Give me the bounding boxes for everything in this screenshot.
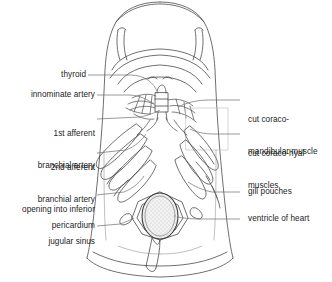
gill-pouches-right xyxy=(175,126,220,208)
label-gill-pouches: gill pouches xyxy=(248,187,332,198)
pharyngeal-dissection xyxy=(126,94,196,135)
label-coraco-hyal-line1: cut coraco-hyal xyxy=(248,149,332,160)
ventricle-of-heart-shape xyxy=(142,193,178,239)
gill-arches-left xyxy=(96,124,156,202)
conus-arteriosus xyxy=(146,238,160,272)
leader-ventricle xyxy=(178,217,240,219)
label-pericardium: pericardium xyxy=(0,221,95,232)
leader-coraco-mandibular xyxy=(178,100,240,107)
leader-coraco-hyal xyxy=(190,129,240,134)
label-second-afferent-line1: 2nd afferent xyxy=(0,163,95,174)
label-first-afferent-line1: 1st afferent xyxy=(0,129,95,140)
leader-pericardium xyxy=(97,218,134,226)
leader-second-afferent xyxy=(97,134,146,153)
label-cut-coraco-hyal-muscles: cut coraco-hyal muscles xyxy=(248,128,332,212)
label-thyroid: thyroid xyxy=(0,70,86,81)
figure-container: thyroid innominate artery 1st afferent b… xyxy=(0,0,332,282)
label-ventricle-of-heart: ventricle of heart xyxy=(248,214,332,225)
label-innominate-artery: innominate artery xyxy=(0,90,95,101)
label-jugular-sinus-line2: jugular sinus xyxy=(0,237,95,248)
leader-thyroid xyxy=(88,75,157,91)
label-jugular-sinus-line1: opening into inferior xyxy=(0,205,95,216)
label-coraco-mandibular-line1: cut coraco- xyxy=(248,115,332,126)
